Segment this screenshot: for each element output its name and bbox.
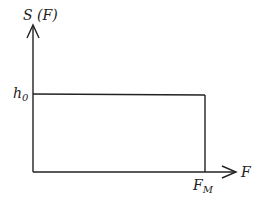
y-axis-label: S (F) <box>23 7 58 23</box>
spectrum-diagram: S (F) h0 FM F <box>0 0 263 200</box>
x-axis-label: F <box>240 164 252 180</box>
level-label: h0 <box>13 85 29 103</box>
cutoff-label: FM <box>192 177 214 195</box>
level-line <box>33 94 205 95</box>
